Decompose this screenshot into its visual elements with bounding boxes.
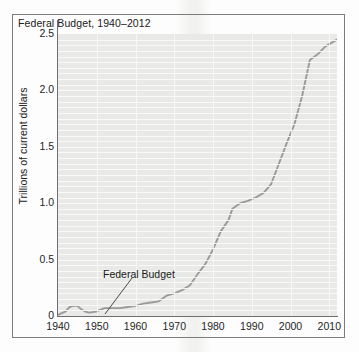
y-tick-label: 2.5 [10, 27, 54, 39]
series-line-federal-budget [58, 40, 337, 315]
horizontal-gridline [58, 141, 337, 142]
y-tick-label: 2.0 [10, 83, 54, 95]
vertical-gridline [252, 34, 253, 316]
horizontal-gridline [58, 147, 337, 148]
plot-area [58, 34, 337, 316]
y-tick-labels: 00.51.01.52.02.5 [8, 0, 54, 352]
horizontal-gridline [58, 243, 337, 244]
vertical-gridline [291, 34, 292, 316]
horizontal-gridline [58, 158, 337, 159]
y-tick-label: 1.0 [10, 196, 54, 208]
horizontal-gridline [58, 45, 337, 46]
horizontal-gridline [58, 265, 337, 266]
horizontal-gridline [58, 226, 337, 227]
horizontal-gridline [58, 107, 337, 108]
horizontal-gridline [58, 209, 337, 210]
horizontal-gridline [58, 186, 337, 187]
x-tick-label: 2010 [306, 320, 352, 332]
y-tick-label: 0.5 [10, 253, 54, 265]
horizontal-gridline [58, 231, 337, 232]
horizontal-gridline [58, 79, 337, 80]
horizontal-gridline [58, 90, 337, 91]
horizontal-gridline [58, 119, 337, 120]
horizontal-gridline [58, 68, 337, 69]
horizontal-gridline [58, 57, 337, 58]
horizontal-gridline [58, 260, 337, 261]
annotation-leader-line [96, 276, 136, 316]
horizontal-gridline [58, 96, 337, 97]
horizontal-gridline [58, 40, 337, 41]
horizontal-gridline [58, 152, 337, 153]
horizontal-gridline [58, 198, 337, 199]
horizontal-gridline [58, 203, 337, 204]
horizontal-gridline [58, 192, 337, 193]
horizontal-gridline [58, 62, 337, 63]
horizontal-gridline [58, 102, 337, 103]
horizontal-gridline [58, 248, 337, 249]
vertical-gridline [97, 34, 98, 316]
y-axis-line [57, 20, 58, 317]
horizontal-gridline [58, 169, 337, 170]
x-axis-line [57, 316, 338, 317]
horizontal-gridline [58, 175, 337, 176]
horizontal-gridline [58, 237, 337, 238]
horizontal-gridline [58, 220, 337, 221]
horizontal-gridline [58, 73, 337, 74]
vertical-gridline [213, 34, 214, 316]
horizontal-gridline [58, 124, 337, 125]
horizontal-gridline [58, 214, 337, 215]
horizontal-gridline [58, 136, 337, 137]
y-tick-label: 1.5 [10, 140, 54, 152]
horizontal-gridline [58, 164, 337, 165]
horizontal-gridline [58, 254, 337, 255]
horizontal-gridline [58, 85, 337, 86]
figure-container: Federal Budget, 1940–2012 Trillions of c… [0, 0, 359, 352]
horizontal-gridline [58, 113, 337, 114]
vertical-gridline [329, 34, 330, 316]
horizontal-gridline [58, 181, 337, 182]
horizontal-gridline [58, 130, 337, 131]
horizontal-gridline [58, 271, 337, 272]
horizontal-gridline [58, 51, 337, 52]
